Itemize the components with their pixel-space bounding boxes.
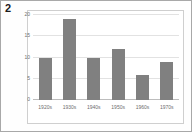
ytick-label-20: 20 [24, 12, 30, 17]
xtick-label-1920s: 1920s [38, 105, 52, 110]
bar-1940s[interactable] [87, 58, 100, 101]
bar-slot-1920s: 1920s [33, 15, 57, 100]
ytick-label-5: 5 [27, 75, 30, 80]
bar-slot-1960s: 1960s [130, 15, 154, 100]
bar-slot-1940s: 1940s [82, 15, 106, 100]
ytick-label-0: 0 [27, 97, 30, 102]
bar-series: 1920s 1930s 1940s 1950s 1960s 1970s [33, 15, 179, 100]
bar-1920s[interactable] [39, 58, 52, 101]
ytick-label-10: 10 [24, 54, 30, 59]
plot-area: 20 15 10 5 0 1920s 1930s 1940s [33, 15, 179, 100]
xtick-label-1950s: 1950s [111, 105, 125, 110]
bar-slot-1930s: 1930s [57, 15, 81, 100]
figure-number-label: 2 [5, 2, 11, 14]
bar-1950s[interactable] [112, 49, 125, 100]
ytick-label-15: 15 [24, 33, 30, 38]
bar-slot-1950s: 1950s [106, 15, 130, 100]
figure-container: 2 20 15 10 5 0 1920s 1930s [0, 0, 192, 132]
bar-1930s[interactable] [63, 19, 76, 100]
xtick-label-1960s: 1960s [136, 105, 150, 110]
bar-1970s[interactable] [160, 62, 173, 100]
xtick-label-1940s: 1940s [87, 105, 101, 110]
bar-slot-1970s: 1970s [155, 15, 179, 100]
xtick-label-1970s: 1970s [160, 105, 174, 110]
bar-1960s[interactable] [136, 75, 149, 101]
xtick-label-1930s: 1930s [63, 105, 77, 110]
